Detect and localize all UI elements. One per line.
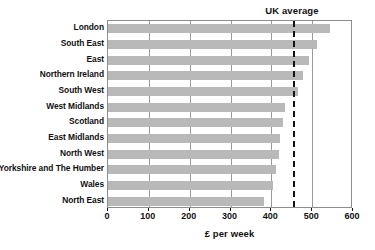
category-label: South West: [59, 85, 104, 95]
category-label: Yorkshire and The Humber: [0, 163, 104, 173]
category-label: London: [74, 22, 104, 32]
bar: [108, 165, 276, 174]
category-label: South East: [61, 38, 104, 48]
tick-label: 0: [104, 211, 109, 221]
uk-average-line: [293, 21, 295, 207]
bar-row: [108, 146, 353, 162]
bar-row: [108, 162, 353, 178]
uk-average-label: UK average: [265, 5, 318, 16]
bar-chart: UK average LondonSouth EastEastNorthern …: [0, 0, 375, 250]
bar-row: [108, 131, 353, 147]
bar-row: [108, 99, 353, 115]
bar: [108, 40, 317, 49]
tick-label: 300: [222, 211, 237, 221]
bar-row: [108, 84, 353, 100]
bar: [108, 56, 309, 65]
bars-layer: [108, 21, 351, 207]
category-label: East: [87, 54, 105, 64]
x-axis-title: £ per week: [107, 228, 352, 239]
bar-row: [108, 68, 353, 84]
category-label: Scotland: [69, 116, 104, 126]
category-label: North East: [62, 195, 104, 205]
bar-row: [108, 21, 353, 37]
bar: [108, 24, 330, 33]
bar-row: [108, 193, 353, 209]
category-label: East Midlands: [48, 132, 104, 142]
category-label: West Midlands: [46, 101, 104, 111]
category-axis-labels: LondonSouth EastEastNorthern IrelandSout…: [0, 20, 104, 208]
category-label: North West: [60, 148, 104, 158]
bar: [108, 134, 280, 143]
bar: [108, 181, 273, 190]
bar: [108, 87, 298, 96]
category-label: Wales: [80, 179, 104, 189]
bar-row: [108, 178, 353, 194]
plot-area: [107, 20, 352, 208]
tick-label: 500: [304, 211, 319, 221]
bar: [108, 118, 283, 127]
bar: [108, 150, 279, 159]
tick-label: 100: [140, 211, 155, 221]
tick-label: 200: [181, 211, 196, 221]
bar: [108, 197, 264, 206]
bar: [108, 103, 285, 112]
bar-row: [108, 52, 353, 68]
tick-label: 400: [263, 211, 278, 221]
category-label: Northern Ireland: [40, 69, 104, 79]
tick-label: 600: [344, 211, 359, 221]
bar-row: [108, 37, 353, 53]
value-axis-ticks: 0100200300400500600: [107, 208, 352, 224]
bar-row: [108, 115, 353, 131]
bar: [108, 71, 303, 80]
